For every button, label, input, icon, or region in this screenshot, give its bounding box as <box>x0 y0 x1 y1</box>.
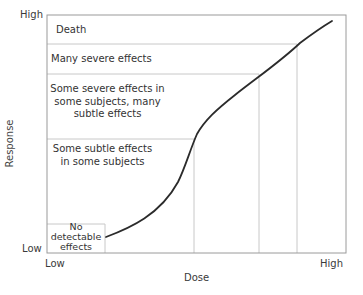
x-axis-high-label: High <box>320 258 343 270</box>
y-axis-low-label: Low <box>22 243 42 255</box>
x-axis-low-label: Low <box>45 258 65 270</box>
y-axis-high-label: High <box>20 9 43 21</box>
zone-label-some-severe: Some severe effects in some subjects, ma… <box>50 83 165 121</box>
zone-label-death: Death <box>56 24 86 37</box>
y-axis-title: Response <box>4 122 15 168</box>
x-axis-title: Dose <box>184 272 209 284</box>
zone-label-some-subtle: Some subtle effects in some subjects <box>50 143 155 168</box>
zone-label-no-effects: No detectable effects <box>47 222 105 252</box>
zone-label-many-severe: Many severe effects <box>51 53 152 66</box>
